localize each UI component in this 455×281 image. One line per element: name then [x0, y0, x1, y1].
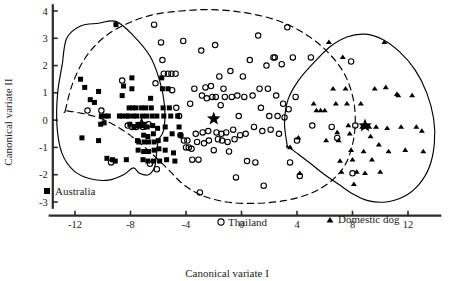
filled-square-point: [160, 86, 165, 91]
open-circle-point: [232, 137, 237, 142]
filled-square-point: [164, 157, 169, 162]
filled-square-point: [161, 105, 166, 110]
filled-square-point: [146, 149, 151, 154]
open-circle-point: [243, 131, 248, 136]
y-tick-label: -3: [39, 197, 48, 208]
x-tick-label: 4: [294, 219, 300, 230]
filled-triangle-point: [419, 128, 425, 133]
open-circle-point: [244, 158, 249, 163]
open-circle-point: [237, 132, 242, 137]
open-circle-point: [187, 101, 192, 106]
legend-label-australia: Australia: [55, 185, 95, 197]
filled-square-point: [156, 138, 161, 143]
open-circle-point: [154, 167, 159, 172]
filled-square-point: [161, 114, 166, 119]
filled-square-point: [104, 156, 109, 161]
centroid-star-thailand: [207, 112, 221, 125]
filled-square-point: [171, 150, 176, 155]
open-circle-point: [185, 138, 190, 143]
filled-square-point: [92, 100, 97, 105]
filled-triangle-point: [343, 86, 349, 91]
open-circle-point: [265, 86, 270, 91]
filled-triangle-point: [350, 157, 356, 162]
filled-triangle-point: [330, 86, 336, 91]
series-domestic-dog: [287, 40, 426, 186]
centroid-star-domestic-dog: [358, 118, 372, 131]
open-circle-point: [174, 105, 179, 110]
open-circle-point: [310, 123, 315, 128]
filled-triangle-point: [344, 101, 350, 106]
filled-triangle-point: [369, 157, 375, 162]
open-circle-point: [236, 113, 241, 118]
filled-square-point: [129, 86, 134, 91]
open-circle-point: [199, 48, 204, 53]
open-circle-point: [208, 83, 213, 88]
filled-triangle-point: [333, 101, 339, 106]
filled-triangle-point: [383, 85, 389, 90]
filled-square-point: [124, 157, 129, 162]
filled-triangle-point: [409, 93, 415, 98]
x-axis-title: Canonical variate I: [185, 267, 269, 279]
filled-square-point: [168, 114, 173, 119]
filled-triangle-point: [402, 147, 408, 152]
open-circle-point: [119, 78, 124, 83]
open-circle-point: [229, 94, 234, 99]
x-tick-label: -12: [68, 219, 82, 230]
open-circle-point: [221, 86, 226, 91]
open-circle-point: [153, 81, 158, 86]
filled-triangle-point: [295, 135, 301, 140]
filled-square-point: [126, 114, 131, 119]
open-circle-point: [240, 74, 245, 79]
filled-triangle-icon: [327, 217, 334, 223]
filled-triangle-point: [361, 149, 367, 154]
chart-figure: -3-2-101234 -12-8-404812 Canonical varia…: [0, 0, 455, 281]
filled-square-point: [144, 114, 149, 119]
open-circle-point: [268, 127, 273, 132]
legend-label-thailand: Thailand: [228, 216, 268, 228]
x-tick-label: -8: [126, 219, 135, 230]
axis-lines: [49, 4, 442, 215]
y-axis-title: Canonical variate II: [2, 78, 14, 166]
filled-square-point: [136, 148, 141, 153]
open-circle-point: [212, 42, 217, 47]
filled-square-point: [96, 89, 101, 94]
filled-square-point: [177, 124, 182, 129]
y-tick-label: 4: [43, 6, 49, 17]
filled-square-point: [170, 131, 175, 136]
filled-square-point: [155, 126, 160, 131]
filled-triangle-point: [377, 169, 383, 174]
filled-square-point: [120, 93, 125, 98]
filled-square-point: [82, 85, 87, 90]
filled-square-point: [163, 124, 168, 129]
legend-item-thailand: Thailand: [218, 216, 268, 228]
open-circle-point: [267, 113, 272, 118]
open-circle-point: [206, 128, 211, 133]
open-circle-point: [193, 131, 198, 136]
open-circle-point: [253, 160, 258, 165]
open-circle-point: [235, 93, 240, 98]
filled-square-point: [113, 22, 118, 27]
filled-triangle-point: [420, 149, 426, 154]
open-circle-point: [293, 94, 298, 99]
open-circle-point: [279, 62, 284, 67]
open-circle-point: [204, 96, 209, 101]
open-circle-point: [242, 94, 247, 99]
filled-triangle-point: [362, 171, 368, 176]
open-circle-point: [348, 59, 353, 64]
filled-square-point: [106, 114, 111, 119]
filled-square-point: [156, 146, 161, 151]
filled-triangle-point: [373, 124, 379, 129]
y-tick-label: 3: [43, 33, 48, 44]
series-australia: [78, 22, 183, 163]
filled-square-point: [129, 75, 134, 80]
filled-triangle-point: [340, 55, 346, 60]
open-circle-point: [192, 86, 197, 91]
open-circle-point: [308, 55, 313, 60]
open-circle-point: [194, 139, 199, 144]
filled-triangle-point: [323, 138, 329, 143]
open-circle-point: [290, 55, 295, 60]
y-tick-label: 0: [43, 115, 48, 126]
open-circle-point: [287, 160, 292, 165]
legend-item-domestic-dog: Domestic dog: [327, 213, 400, 225]
open-circle-point: [230, 127, 235, 132]
